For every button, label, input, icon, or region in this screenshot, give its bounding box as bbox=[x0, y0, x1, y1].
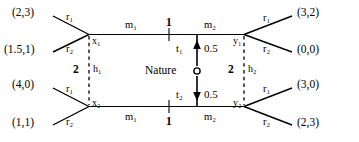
player-label-bottom-1: 1 bbox=[166, 116, 172, 128]
payoff-top-left-r2: (1.5,1) bbox=[4, 44, 35, 56]
player-label-top-1: 1 bbox=[166, 17, 172, 29]
action-label-y1-r1: r₁ bbox=[263, 13, 270, 24]
node-label-x2: x₂ bbox=[92, 98, 101, 108]
arrowhead-t1-icon bbox=[193, 40, 201, 49]
action-label-m1-top: m₁ bbox=[125, 20, 137, 31]
game-tree-diagram: (2,3) (1.5,1) (4,0) (1,1) (3,2) (0,0) (3… bbox=[0, 0, 359, 142]
node-label-y2: y₂ bbox=[233, 98, 242, 108]
payoff-bottom-right-r2: (2,3) bbox=[297, 117, 319, 129]
action-label-t1: t₁ bbox=[176, 44, 183, 55]
nature-chance-node bbox=[194, 68, 200, 74]
payoff-top-right-r1: (3,2) bbox=[297, 7, 319, 19]
node-label-x1: x₁ bbox=[92, 36, 101, 46]
action-label-y2-r2: r₂ bbox=[263, 117, 270, 128]
payoff-bottom-left-r1: (4,0) bbox=[12, 79, 34, 91]
probability-t2: 0.5 bbox=[204, 89, 218, 100]
action-label-x1-r2: r₂ bbox=[66, 44, 73, 55]
player-label-right-2: 2 bbox=[228, 64, 234, 76]
action-label-y1-r2: r₂ bbox=[263, 44, 270, 55]
player-label-left-2: 2 bbox=[73, 64, 79, 76]
info-set-label-h1: h₁ bbox=[93, 64, 102, 74]
action-label-x2-r1: r₁ bbox=[66, 84, 73, 95]
action-label-x2-r2: r₂ bbox=[66, 117, 73, 128]
action-label-x1-r1: r₁ bbox=[66, 12, 73, 23]
node-label-y1: y₁ bbox=[233, 36, 242, 46]
payoff-bottom-left-r2: (1,1) bbox=[12, 117, 34, 129]
probability-t1: 0.5 bbox=[204, 43, 218, 54]
action-label-t2: t₂ bbox=[176, 90, 183, 101]
info-set-label-h2: h₂ bbox=[248, 64, 257, 74]
action-label-m1-bottom: m₁ bbox=[125, 112, 137, 123]
nature-label: Nature bbox=[145, 65, 176, 77]
payoff-bottom-right-r1: (3,0) bbox=[297, 79, 319, 91]
action-label-y2-r1: r₁ bbox=[263, 84, 270, 95]
payoff-top-left-r1: (2,3) bbox=[12, 7, 34, 19]
arrowhead-t2-icon bbox=[193, 92, 201, 101]
action-label-m2-bottom: m₂ bbox=[204, 112, 216, 123]
action-label-m2-top: m₂ bbox=[204, 20, 216, 31]
payoff-top-right-r2: (0,0) bbox=[297, 44, 319, 56]
